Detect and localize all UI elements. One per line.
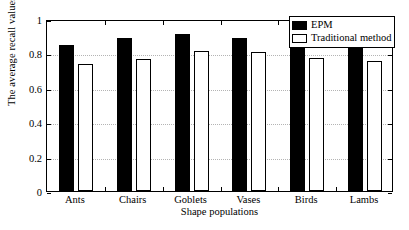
y-axis-tick-mark bbox=[47, 21, 51, 22]
legend-item-epm: EPM bbox=[292, 19, 391, 32]
x-axis-tick-mark bbox=[278, 187, 279, 191]
bar-traditional-chairs bbox=[136, 59, 151, 191]
x-axis-tick-label-lambs: Lambs bbox=[350, 195, 379, 206]
y-axis-tick-label: 1 bbox=[37, 16, 42, 27]
bar-traditional-ants bbox=[78, 64, 93, 191]
y-axis-tick-mark bbox=[47, 90, 51, 91]
gridline bbox=[47, 55, 392, 56]
bar-epm-birds bbox=[290, 43, 305, 191]
y-axis-tick-label: 0 bbox=[37, 188, 42, 199]
legend-swatch-epm-icon bbox=[292, 21, 307, 30]
y-axis-label: The average recall values bbox=[6, 0, 17, 106]
x-axis-label: Shape populations bbox=[46, 206, 393, 217]
x-axis-tick-mark bbox=[221, 21, 222, 25]
x-axis-tick-mark bbox=[163, 187, 164, 191]
bar-epm-ants bbox=[59, 45, 74, 191]
bar-epm-vases bbox=[232, 38, 247, 191]
x-axis-tick-label-birds: Birds bbox=[295, 195, 318, 206]
legend-item-traditional: Traditional method bbox=[292, 32, 391, 45]
y-axis-tick-mark bbox=[47, 55, 51, 56]
y-axis-tick-mark bbox=[388, 90, 392, 91]
y-axis-tick-mark bbox=[47, 159, 51, 160]
legend-label: Traditional method bbox=[311, 33, 391, 44]
x-axis-tick-label-chairs: Chairs bbox=[119, 195, 146, 206]
x-axis-tick-mark bbox=[278, 21, 279, 25]
y-axis-tick-label: 0.8 bbox=[29, 50, 42, 61]
gridline bbox=[47, 124, 392, 125]
y-axis-tick-mark bbox=[388, 193, 392, 194]
y-axis-tick-label: 0.2 bbox=[29, 153, 42, 164]
x-axis-tick-label-vases: Vases bbox=[236, 195, 260, 206]
y-axis-tick-mark bbox=[388, 159, 392, 160]
y-axis-tick-label: 0.4 bbox=[29, 119, 42, 130]
bar-chart-figure: The average recall values 00.20.40.60.81… bbox=[0, 0, 409, 230]
bar-epm-chairs bbox=[117, 38, 132, 191]
legend-swatch-traditional-icon bbox=[292, 34, 307, 43]
gridline bbox=[47, 159, 392, 160]
x-axis-tick-mark bbox=[336, 187, 337, 191]
y-axis-tick-label: 0.6 bbox=[29, 85, 42, 96]
chart-legend: EPMTraditional method bbox=[289, 16, 395, 48]
y-axis-tick-mark bbox=[388, 55, 392, 56]
y-axis-tick-mark bbox=[47, 193, 51, 194]
x-axis-tick-mark bbox=[163, 21, 164, 25]
x-axis-tick-mark bbox=[221, 187, 222, 191]
y-axis-tick-mark bbox=[47, 124, 51, 125]
x-axis-tick-mark bbox=[105, 187, 106, 191]
x-axis-tick-mark bbox=[105, 21, 106, 25]
x-axis-tick-label-ants: Ants bbox=[65, 195, 85, 206]
bar-traditional-goblets bbox=[194, 51, 209, 191]
bar-traditional-birds bbox=[309, 58, 324, 191]
bar-epm-lambs bbox=[348, 45, 363, 191]
bar-traditional-lambs bbox=[367, 61, 382, 191]
gridline bbox=[47, 90, 392, 91]
x-axis-tick-label-goblets: Goblets bbox=[174, 195, 207, 206]
bar-traditional-vases bbox=[251, 52, 266, 191]
bar-epm-goblets bbox=[175, 34, 190, 191]
legend-label: EPM bbox=[311, 20, 333, 31]
y-axis-tick-mark bbox=[388, 124, 392, 125]
